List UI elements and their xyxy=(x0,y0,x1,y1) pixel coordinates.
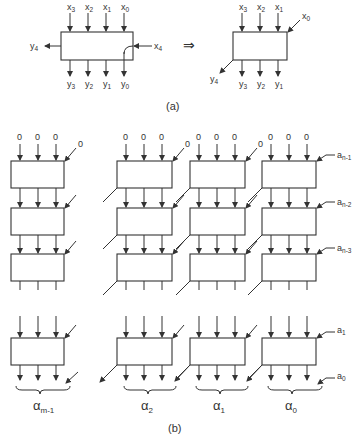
svg-text:0: 0 xyxy=(159,132,164,142)
label-x1: x1 xyxy=(275,2,284,13)
cell-box xyxy=(61,32,133,60)
label-alpha-m-1: αm-1 xyxy=(33,398,55,415)
label-y4: y4 xyxy=(30,41,39,52)
cell-array xyxy=(11,144,335,384)
right-cell-block: x3 x2 x1 x0 y3 y2 y1 y4 xyxy=(210,2,311,90)
svg-text:0: 0 xyxy=(123,132,128,142)
label-y0: y0 xyxy=(121,79,130,90)
label-x2: x2 xyxy=(85,2,94,13)
label-y3: y3 xyxy=(67,79,76,90)
label-y2: y2 xyxy=(85,79,94,90)
cell-box xyxy=(11,338,64,365)
cell-box xyxy=(262,338,316,365)
cell-box xyxy=(11,208,64,235)
label-a-n-1: an-1 xyxy=(337,150,352,161)
cell-box xyxy=(11,254,64,281)
caption-b: (b) xyxy=(168,422,181,434)
label-y1: y1 xyxy=(103,79,112,90)
svg-text:0: 0 xyxy=(35,132,40,142)
svg-text:0: 0 xyxy=(214,132,219,142)
label-a-n-3: an-3 xyxy=(337,243,352,254)
svg-text:0: 0 xyxy=(78,139,83,149)
label-y1: y1 xyxy=(275,79,284,90)
cell-box xyxy=(190,161,245,188)
left-cell-block: x3 x2 x1 x0 y3 y2 y1 y0 x4 xyxy=(30,2,163,90)
brace-alpha-1 xyxy=(196,386,248,394)
cell-box xyxy=(117,338,172,365)
cell-box xyxy=(11,161,64,188)
multiplier-array-diagram: x3 x2 x1 x0 y3 y2 y1 y0 x4 xyxy=(0,0,356,435)
cell-box xyxy=(190,208,245,235)
cell-box xyxy=(190,254,245,281)
label-a-0: a0 xyxy=(337,371,346,382)
svg-text:0: 0 xyxy=(232,132,237,142)
svg-text:0: 0 xyxy=(258,139,263,149)
label-x0: x0 xyxy=(121,2,130,13)
svg-text:0: 0 xyxy=(53,132,58,142)
label-x2: x2 xyxy=(257,2,266,13)
label-y2: y2 xyxy=(257,79,266,90)
cell-box xyxy=(190,338,245,365)
top-zero-inputs: 0 0 0 0 0 0 0 0 0 0 0 0 0 0 0 xyxy=(17,132,309,149)
label-alpha-0: α0 xyxy=(285,398,298,415)
label-x4: x4 xyxy=(154,41,163,52)
cell-box xyxy=(233,32,287,60)
cell-box xyxy=(117,208,172,235)
label-x1: x1 xyxy=(103,2,112,13)
svg-text:0: 0 xyxy=(304,132,309,142)
cell-box xyxy=(262,254,316,281)
caption-a: (a) xyxy=(166,100,179,112)
left-block-inputs: x3 x2 x1 x0 xyxy=(67,2,130,31)
svg-text:0: 0 xyxy=(196,132,201,142)
label-x3: x3 xyxy=(67,2,76,13)
row-input-labels: an-1 an-2 an-3 a1 a0 xyxy=(337,150,352,382)
label-alpha-2: α2 xyxy=(141,398,154,415)
label-x0: x0 xyxy=(302,11,311,22)
part-b: 0 0 0 0 0 0 0 0 0 0 0 0 0 0 0 an-1 an-2 … xyxy=(11,132,352,434)
label-a-1: a1 xyxy=(337,325,346,336)
svg-text:0: 0 xyxy=(286,132,291,142)
svg-text:0: 0 xyxy=(17,132,22,142)
part-a: x3 x2 x1 x0 y3 y2 y1 y0 x4 xyxy=(30,2,311,112)
output-groups: αm-1 α2 α1 α0 xyxy=(16,386,322,415)
cell-box xyxy=(117,161,172,188)
label-a-n-2: an-2 xyxy=(337,197,352,208)
brace-alpha-m-1 xyxy=(16,386,70,394)
label-alpha-1: α1 xyxy=(213,398,226,415)
cell-box xyxy=(262,161,316,188)
label-y3: y3 xyxy=(239,79,248,90)
svg-text:0: 0 xyxy=(268,132,273,142)
cell-box xyxy=(262,208,316,235)
svg-text:0: 0 xyxy=(185,139,190,149)
cell-box xyxy=(117,254,172,281)
svg-text:0: 0 xyxy=(141,132,146,142)
y4-output: y4 xyxy=(30,41,61,52)
brace-alpha-0 xyxy=(268,386,322,394)
transform-arrow-icon: ⇒ xyxy=(183,37,195,53)
label-x3: x3 xyxy=(239,2,248,13)
label-y4: y4 xyxy=(210,74,219,85)
brace-alpha-2 xyxy=(124,386,176,394)
